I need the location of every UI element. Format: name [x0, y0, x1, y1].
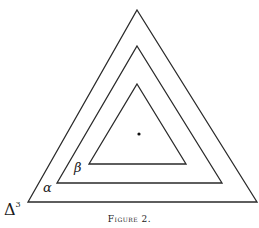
- alpha-label: α: [43, 180, 52, 195]
- delta-superscript: 3: [16, 200, 21, 209]
- nested-triangles-diagram: [0, 0, 259, 228]
- beta-label: β: [74, 160, 82, 175]
- figure-caption: Figure 2.: [0, 214, 259, 224]
- center-point: [137, 132, 140, 135]
- inner-triangle: [89, 84, 186, 164]
